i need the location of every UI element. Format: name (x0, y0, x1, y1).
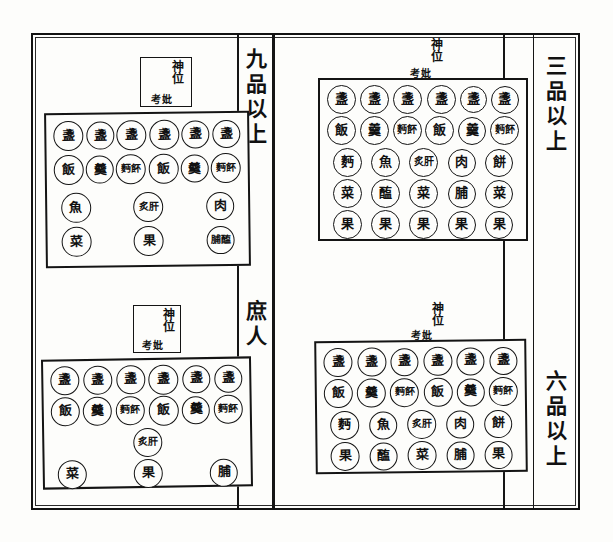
dish-cup: 盞 (214, 364, 242, 392)
offering-row: 盞 盞 盞 盞 盞 盞 (320, 85, 526, 114)
dish-cup: 盞 (86, 121, 114, 149)
dish-cup: 盞 (148, 364, 178, 394)
dish-soup: 羹 (360, 116, 389, 145)
dish-cup: 盞 (116, 365, 145, 394)
spirit-tablet-upper-right: 神位 妣 考 (402, 36, 448, 80)
dish-cup: 盞 (357, 347, 386, 376)
dish-rice: 飯 (50, 397, 79, 426)
dish-cup: 盞 (324, 348, 353, 377)
dish-noodle: 麪䬪 (490, 116, 519, 145)
dish-rice: 飯 (148, 154, 178, 184)
dish-cup: 盞 (181, 120, 209, 148)
dish-vegetable: 菜 (333, 179, 362, 208)
dish-cup: 盞 (182, 364, 210, 392)
dish-fruit: 果 (409, 210, 438, 239)
dish-noodle: 麪䬪 (116, 396, 145, 425)
document-page: 九品以上 庶人 三品以上 六品以上 神位 妣 考 盞 盞 盞 盞 盞 盞 飯 羹… (0, 0, 613, 542)
dish-fish: 魚 (371, 148, 400, 177)
dish-meat-sauce: 醢 (371, 179, 400, 208)
dish-noodle: 麪䬪 (393, 116, 422, 145)
dish-cup: 盞 (53, 121, 83, 151)
dish-rice: 飯 (423, 378, 452, 407)
dish-vegetable: 菜 (485, 180, 513, 208)
dish-rice: 飯 (327, 116, 356, 145)
dish-cup: 盞 (391, 348, 419, 376)
offering-row: 麪 魚 炙肝 肉 餅 (317, 409, 525, 441)
offering-row: 果 醢 菜 脯 果 (317, 440, 525, 472)
offering-row: 菜 果 脯 (45, 457, 251, 489)
offering-table-lower-left: 盞 盞 盞 盞 盞 盞 飯 羹 麪䬪 飯 羹 麪䬪 炙肝 (41, 356, 253, 489)
dish-meat-sauce: 醢 (369, 442, 397, 470)
tablet-main-text: 神位 (161, 308, 173, 332)
offering-row: 飯 羹 麪䬪 飯 羹 麪䬪 (320, 116, 526, 145)
dish-dried-meat: 脯 (448, 180, 476, 208)
dish-vegetable: 菜 (407, 441, 436, 470)
tablet-mother-text: 妣 (419, 68, 429, 78)
dish-cup: 盞 (460, 86, 487, 113)
dish-noodle: 麪䬪 (116, 154, 146, 184)
dish-noodle: 麪䬪 (489, 377, 518, 406)
offering-row: 盞 盞 盞 盞 盞 盞 (43, 363, 249, 395)
dish-soup: 羹 (182, 396, 210, 424)
dish-noodle: 麪 (330, 411, 359, 440)
dish-roast-liver: 炙肝 (134, 192, 164, 222)
offering-row: 炙肝 (44, 426, 250, 458)
offering-row: 飯 羹 麪䬪 飯 羹 麪䬪 (317, 377, 525, 409)
tablet-main-text: 神位 (429, 38, 441, 62)
dish-soup: 羹 (357, 378, 386, 407)
dish-soup: 羹 (180, 154, 208, 182)
dish-fruit: 果 (484, 440, 512, 468)
dish-fish: 魚 (61, 193, 91, 223)
dish-fish: 魚 (369, 411, 397, 439)
dish-cup: 盞 (149, 120, 179, 150)
tablet-main-text: 神位 (170, 60, 182, 84)
dish-fruit: 果 (330, 442, 359, 471)
dish-roast-liver: 炙肝 (407, 410, 436, 439)
offering-row: 果 果 果 果 果 (320, 210, 526, 239)
dish-cup: 盞 (489, 346, 517, 374)
dish-cup: 盞 (457, 347, 485, 375)
dish-cup: 盞 (423, 347, 452, 376)
tablet-father-text: 考 (410, 330, 420, 340)
dish-dried-meat: 脯 (446, 441, 474, 469)
offering-row: 魚 炙肝 肉 (47, 191, 248, 223)
offering-row: 飯 羹 麪䬪 飯 羹 麪䬪 (44, 394, 250, 426)
tablet-main-text: 神位 (430, 302, 442, 326)
dish-fruit: 果 (134, 226, 164, 256)
dish-cake: 餅 (484, 409, 512, 437)
dish-roast-liver: 炙肝 (409, 148, 438, 177)
dish-fruit: 果 (134, 459, 163, 488)
offering-row: 菜 醢 菜 脯 菜 (320, 179, 526, 208)
tablet-father-text: 考 (141, 340, 151, 350)
tablet-mother-text: 妣 (420, 330, 430, 340)
column-rule-center (272, 35, 275, 508)
dish-noodle: 麪 (333, 148, 362, 177)
dish-cup: 盞 (360, 85, 389, 114)
dish-meat: 肉 (206, 192, 234, 220)
dish-vegetable: 菜 (409, 179, 438, 208)
offering-table-upper-right: 盞 盞 盞 盞 盞 盞 飯 羹 麪䬪 飯 羹 麪䬪 麪 魚 炙肝 肉 餅 (318, 78, 528, 241)
offering-table-upper-left: 盞 盞 盞 盞 盞 盞 飯 羹 麪䬪 飯 羹 麪䬪 魚 炙肝 肉 (44, 111, 251, 268)
dish-cup: 盞 (491, 86, 519, 114)
dish-cup: 盞 (50, 366, 79, 395)
dish-dried-meat: 脯 (210, 458, 238, 486)
rank-label-third-and-above: 三品以上 (545, 55, 566, 155)
offering-row: 盞 盞 盞 盞 盞 盞 (316, 346, 524, 378)
column-rule-right-outer (533, 35, 534, 508)
dish-cup: 盞 (327, 85, 356, 114)
tablet-father-text: 考 (409, 68, 419, 78)
dish-cup: 盞 (393, 85, 422, 114)
dish-meat: 肉 (446, 410, 474, 438)
rank-label-sixth-and-above: 六品以上 (545, 370, 566, 470)
dish-noodle: 麪䬪 (214, 394, 243, 423)
rank-label-commoner: 庶人 (245, 300, 266, 350)
dish-cup: 盞 (116, 120, 146, 150)
dish-rice: 飯 (54, 155, 84, 185)
dish-noodle: 麪䬪 (210, 153, 240, 183)
spirit-tablet-lower-left: 神位 妣 考 (133, 305, 181, 353)
dish-vegetable: 菜 (61, 227, 91, 257)
dish-roast-liver: 炙肝 (134, 428, 163, 457)
offering-table-lower-right: 盞 盞 盞 盞 盞 盞 飯 羹 麪䬪 飯 羹 麪䬪 麪 魚 炙肝 肉 餅 (314, 339, 528, 475)
dish-vegetable: 菜 (57, 460, 86, 489)
offering-row: 盞 盞 盞 盞 盞 盞 (46, 119, 247, 151)
